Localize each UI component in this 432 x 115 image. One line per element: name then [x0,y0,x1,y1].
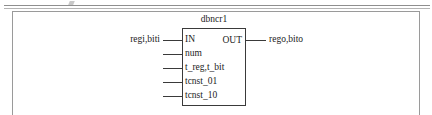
port-label-num: num [185,48,202,59]
stub-line-out [246,40,266,41]
port-label-t-reg-t-bit: t_reg,t_bit [185,62,224,73]
diagram-canvas: regi,biti rego,bito dbncr1 OUT IN num t_… [0,0,432,115]
signal-label-input: regi,biti [130,34,160,45]
stub-line-tcnst-10 [163,96,182,97]
top-rule-upper [4,5,430,6]
top-rule-lower [4,8,430,9]
stub-line-tcnst-01 [163,82,182,83]
stub-line-t-reg-t-bit [163,68,182,69]
signal-label-output: rego,bito [269,34,303,45]
stub-line-num [163,54,182,55]
port-label-tcnst-10: tcnst_10 [185,90,217,101]
block-title: dbncr1 [182,14,246,25]
port-label-in: IN [185,34,195,45]
port-label-tcnst-01: tcnst_01 [185,76,217,87]
stub-line-in [163,40,182,41]
